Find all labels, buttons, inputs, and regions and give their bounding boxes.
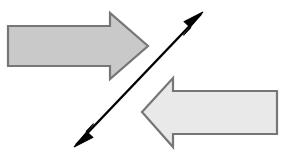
arrows-diagram-canvas: Two opposing block arrows crossed by a d… [0, 0, 291, 165]
diagram-root: Two opposing block arrows crossed by a d… [0, 0, 291, 165]
canvas-background [0, 0, 291, 165]
